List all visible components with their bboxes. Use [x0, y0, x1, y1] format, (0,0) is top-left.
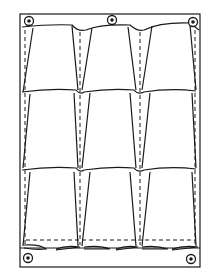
grommet-icon: [25, 17, 34, 26]
organizer-backing: [20, 14, 200, 267]
row2-pocket-folds: [23, 93, 196, 168]
row3-top-edge: [22, 167, 196, 171]
stitch-lines: [25, 30, 196, 245]
grommet-icon: [187, 255, 196, 264]
grommet-icon: [189, 18, 198, 27]
row3-pocket-folds: [23, 172, 196, 246]
grommet-icon: [24, 254, 33, 263]
grommet-icon: [108, 16, 117, 25]
row2-top-edge: [22, 89, 196, 93]
grommets: [24, 16, 198, 264]
pocket-organizer-diagram: [0, 0, 212, 280]
row1-pocket-folds: [23, 25, 196, 92]
